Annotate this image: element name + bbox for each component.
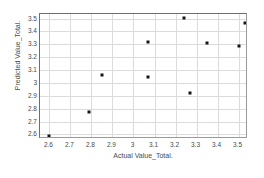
gridline-horizontal (40, 44, 246, 45)
gridline-vertical (155, 14, 156, 137)
gridline-vertical (197, 14, 198, 137)
y-axis-tick-label: 2.7 (15, 117, 37, 124)
y-axis-title: Predicted Value_Total. (14, 1, 21, 111)
gridline-vertical (133, 14, 134, 137)
x-axis-tick-label: 3.3 (185, 141, 207, 149)
data-point (237, 44, 240, 47)
gridline-horizontal (40, 83, 246, 84)
x-axis-title: Actual Value_Total. (39, 152, 247, 159)
scatter-plot-chart: 2.62.72.82.933.13.23.33.43.5 2.62.72.82.… (0, 0, 264, 178)
gridline-horizontal (40, 109, 246, 110)
x-axis-tick-label: 2.8 (79, 141, 101, 149)
gridline-horizontal (40, 96, 246, 97)
data-point (48, 135, 51, 138)
gridline-horizontal (40, 57, 246, 58)
x-axis-tick-label: 3.5 (227, 141, 249, 149)
gridline-vertical (49, 14, 50, 137)
gridline-horizontal (40, 134, 246, 135)
x-axis-tick-label: 2.9 (100, 141, 122, 149)
gridline-vertical (218, 14, 219, 137)
x-axis-tick-label: 2.7 (58, 141, 80, 149)
y-axis-tick-label: 2.6 (15, 130, 37, 137)
gridline-horizontal (40, 19, 246, 20)
gridline-vertical (239, 14, 240, 137)
gridline-horizontal (40, 70, 246, 71)
gridline-horizontal (40, 31, 246, 32)
gridline-horizontal (40, 122, 246, 123)
x-axis-tick-label: 2.6 (37, 141, 59, 149)
x-axis-tick-label: 3.2 (164, 141, 186, 149)
x-axis-tick-label: 3 (121, 141, 143, 149)
data-point (243, 22, 246, 25)
x-axis-tick-labels: 2.62.72.82.933.13.23.33.43.5 (39, 141, 247, 151)
data-point (206, 41, 209, 44)
data-point (182, 16, 185, 19)
plot-area (39, 13, 247, 138)
gridline-vertical (112, 14, 113, 137)
x-axis-tick-label: 3.4 (206, 141, 228, 149)
data-point (147, 75, 150, 78)
gridline-vertical (176, 14, 177, 137)
x-axis-tick-label: 3.1 (143, 141, 165, 149)
gridline-vertical (91, 14, 92, 137)
data-point (100, 73, 103, 76)
data-point (88, 110, 91, 113)
data-point (147, 41, 150, 44)
gridline-vertical (70, 14, 71, 137)
data-point (189, 92, 192, 95)
